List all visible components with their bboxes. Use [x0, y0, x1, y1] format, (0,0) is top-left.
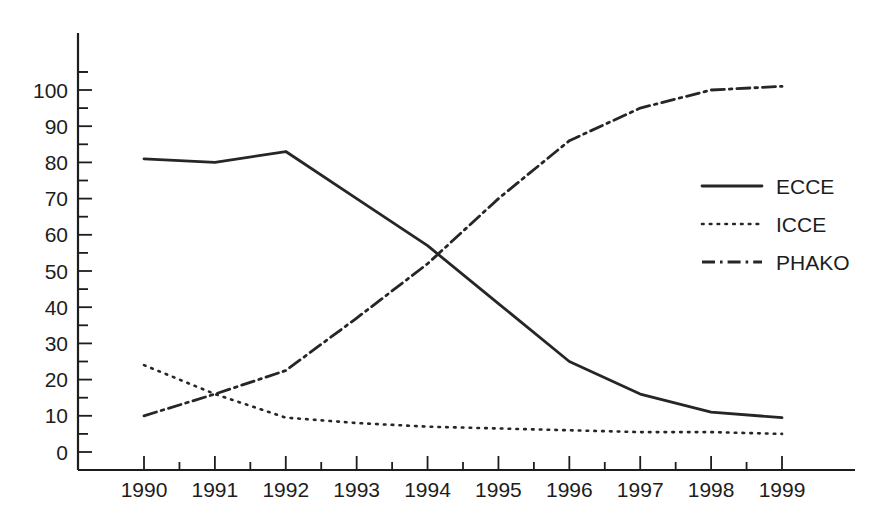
y-axis-ticks [78, 72, 92, 452]
y-axis-tick-label: 50 [45, 260, 68, 283]
y-axis-tick-label: 40 [45, 296, 68, 319]
x-axis-tick-label: 1995 [475, 478, 522, 501]
x-axis-tick-labels: 1990199119921993199419951996199719981999 [121, 478, 806, 501]
y-axis-tick-label: 90 [45, 115, 68, 138]
x-axis-tick-label: 1992 [262, 478, 309, 501]
x-axis-tick-label: 1999 [759, 478, 806, 501]
legend-label-ecce: ECCE [776, 175, 834, 198]
y-axis-tick-label: 10 [45, 404, 68, 427]
y-axis-tick-label: 60 [45, 223, 68, 246]
y-axis-tick-label: 70 [45, 187, 68, 210]
y-axis-tick-label: 30 [45, 332, 68, 355]
x-axis-tick-label: 1997 [617, 478, 664, 501]
chart-canvas: 0102030405060708090100 19901991199219931… [0, 0, 890, 529]
data-series-group [144, 86, 782, 434]
x-axis-ticks [144, 456, 782, 470]
x-axis-tick-label: 1993 [333, 478, 380, 501]
x-axis-tick-label: 1990 [121, 478, 168, 501]
x-axis-tick-label: 1998 [688, 478, 735, 501]
y-axis-tick-labels: 0102030405060708090100 [33, 79, 68, 464]
x-axis-tick-label: 1996 [546, 478, 593, 501]
series-line-icce [144, 365, 782, 434]
y-axis-tick-label: 80 [45, 151, 68, 174]
series-line-phako [144, 86, 782, 415]
x-axis-tick-label: 1994 [404, 478, 451, 501]
line-chart: 0102030405060708090100 19901991199219931… [0, 0, 890, 529]
x-axis-tick-label: 1991 [192, 478, 239, 501]
legend-label-phako: PHAKO [776, 251, 850, 274]
series-line-ecce [144, 152, 782, 418]
y-axis-tick-label: 0 [56, 441, 68, 464]
y-axis-tick-label: 20 [45, 368, 68, 391]
chart-legend: ECCEICCEPHAKO [702, 175, 850, 274]
legend-label-icce: ICCE [776, 213, 826, 236]
y-axis-tick-label: 100 [33, 79, 68, 102]
